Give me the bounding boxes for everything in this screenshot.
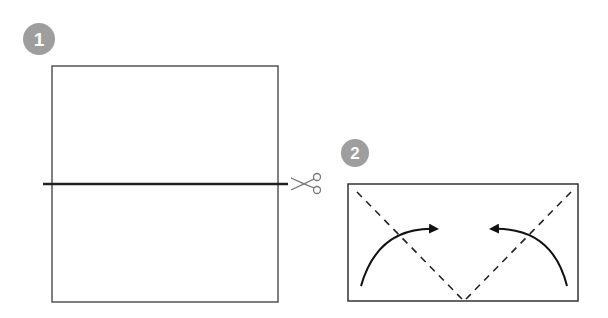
- step-1-number: 1: [34, 29, 45, 50]
- fold-line-right: [466, 192, 571, 299]
- curved-arrow-icon-left: [361, 229, 437, 286]
- step-2-badge: 2: [341, 139, 369, 167]
- curved-arrow-icon-right: [491, 229, 567, 286]
- step-1-badge: 1: [23, 23, 55, 55]
- fold-line-left: [357, 192, 462, 299]
- step-2-rectangle: [348, 184, 578, 301]
- origami-diagram: 1 2: [0, 0, 608, 318]
- scissors-icon: [291, 174, 321, 194]
- step-2-number: 2: [350, 144, 359, 163]
